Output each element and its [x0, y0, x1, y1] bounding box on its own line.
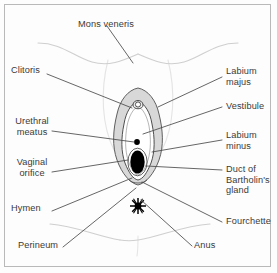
- label-anus: Anus: [194, 240, 234, 251]
- label-urethral-meatus: Urethral meatus: [6, 116, 58, 137]
- leader-mons-veneris: [107, 26, 133, 63]
- label-hymen: Hymen: [11, 203, 59, 214]
- natal-cleft-hint: [137, 236, 138, 256]
- leader-labium-majus: [158, 77, 222, 107]
- leader-clitoris: [47, 74, 132, 108]
- label-clitoris: Clitoris: [11, 65, 57, 76]
- groin-crease-right: [138, 43, 238, 64]
- leader-anus: [141, 200, 192, 246]
- leader-duct-bartholins: [146, 166, 222, 170]
- label-vestibule: Vestibule: [226, 101, 276, 112]
- leader-fourchette: [142, 182, 222, 222]
- mons-swell-left: [103, 60, 114, 150]
- vaginal-orifice-shape: [128, 148, 147, 176]
- label-labium-majus: Labium majus: [226, 66, 274, 87]
- label-perineum: Perineum: [18, 240, 74, 251]
- leader-vaginal-orifice: [52, 160, 128, 172]
- label-fourchette: Fourchette: [226, 216, 276, 227]
- clitoris-shape: [133, 101, 143, 109]
- label-labium-minus: Labium minus: [226, 130, 274, 151]
- perineal-crease-right: [120, 224, 210, 241]
- groin-crease-left: [38, 43, 138, 64]
- label-vaginal-orifice: Vaginal orifice: [6, 157, 58, 178]
- leader-hymen: [52, 178, 132, 211]
- anatomy-figure: Mons veneris Clitoris Urethral meatus Va…: [0, 0, 277, 273]
- perineal-crease-left: [50, 224, 120, 240]
- anus-shape: [130, 198, 146, 214]
- mons-swell-right: [162, 60, 173, 150]
- urethral-meatus-shape: [134, 139, 140, 145]
- leader-perineum: [63, 188, 136, 247]
- label-duct-of-bartholins-gland: Duct of Bartholin's gland: [226, 164, 276, 196]
- label-mons-veneris: Mons veneris: [58, 19, 154, 30]
